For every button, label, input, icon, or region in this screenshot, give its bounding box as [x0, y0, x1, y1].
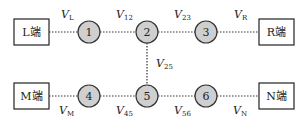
network-diagram: L端 R端 M端 N端 1 2 3 4 5 6 VL V12 V23 VR V2… — [0, 0, 308, 122]
edge-label-N: VN — [233, 104, 247, 118]
terminal-N: N端 — [259, 83, 294, 109]
node-1: 1 — [78, 21, 100, 43]
terminal-L-label: L端 — [22, 26, 40, 39]
terminal-R: R端 — [259, 19, 294, 45]
edge-label-R: VR — [234, 8, 248, 22]
node-3: 3 — [195, 21, 217, 43]
terminal-M-label: M端 — [20, 90, 42, 103]
node-1-label: 1 — [86, 26, 93, 39]
terminal-N-label: N端 — [266, 90, 287, 103]
node-5-label: 5 — [144, 90, 151, 103]
node-6-label: 6 — [203, 90, 210, 103]
edge-label-M: VM — [59, 104, 74, 118]
edge-label-23: V23 — [174, 8, 191, 22]
terminal-R-label: R端 — [267, 26, 286, 39]
node-4: 4 — [78, 85, 100, 107]
edge-label-56: V56 — [174, 104, 191, 118]
node-2-label: 2 — [144, 26, 151, 39]
node-5: 5 — [136, 85, 158, 107]
edge-label-L: VL — [61, 8, 74, 22]
edge-label-12: V12 — [116, 8, 133, 22]
node-3-label: 3 — [203, 26, 210, 39]
edge-label-45: V45 — [116, 104, 133, 118]
terminal-L: L端 — [14, 19, 49, 45]
edge-label-25: V25 — [156, 57, 173, 71]
node-6: 6 — [195, 85, 217, 107]
node-4-label: 4 — [86, 90, 93, 103]
terminal-M: M端 — [14, 83, 49, 109]
node-2: 2 — [136, 21, 158, 43]
